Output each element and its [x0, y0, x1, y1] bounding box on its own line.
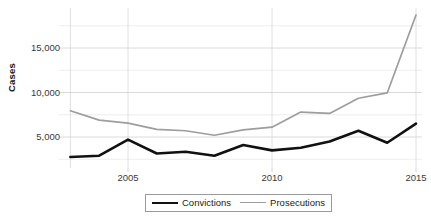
legend-item-prosecutions: Prosecutions	[240, 197, 325, 208]
gridlines	[59, 8, 422, 168]
series-prosecutions	[70, 15, 416, 135]
legend: Convictions Prosecutions	[145, 194, 332, 212]
y-tick-label: 10,000	[16, 88, 60, 98]
series-lines	[70, 15, 416, 157]
series-convictions	[70, 124, 416, 157]
y-tick-10000: 10,000	[16, 88, 60, 98]
y-tick-5000: 5,000	[16, 132, 60, 142]
y-tick-label: 5,000	[16, 132, 60, 142]
y-tick-label: 15,000	[16, 43, 60, 53]
y-tick-15000: 15,000	[16, 43, 60, 53]
legend-line-swatch-icon	[152, 202, 178, 204]
y-axis-title: Cases	[6, 48, 17, 108]
legend-item-convictions: Convictions	[152, 197, 231, 208]
legend-line-swatch-icon	[240, 202, 266, 203]
legend-label: Prosecutions	[270, 197, 325, 208]
x-tick-2015: 2015	[394, 172, 431, 183]
legend-label: Convictions	[182, 197, 231, 208]
x-tick-2010: 2010	[250, 172, 294, 183]
x-tick-2005: 2005	[106, 172, 150, 183]
